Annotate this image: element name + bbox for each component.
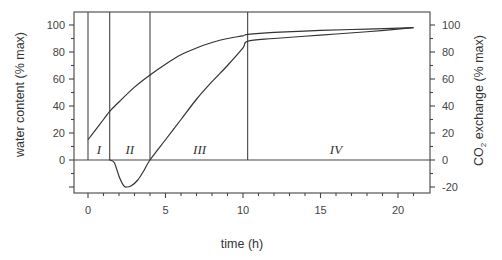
co2-exchange-line (110, 28, 414, 187)
right-tick-label: 100 (442, 19, 460, 31)
right-tick-label: 20 (442, 127, 454, 139)
right-tick-label: 60 (442, 73, 454, 85)
phase-label-II: II (125, 142, 135, 157)
left-tick-label: 100 (47, 19, 65, 31)
chart: 020406080100-2002040608010005101520IIIII… (0, 0, 502, 260)
x-axis-label: time (h) (221, 237, 263, 251)
right-tick-label: -20 (442, 181, 458, 193)
right-tick-label: 0 (442, 154, 448, 166)
phase-label-III: III (192, 142, 207, 157)
plot-frame (74, 12, 430, 193)
left-tick-label: 60 (53, 73, 65, 85)
right-tick-label: 40 (442, 100, 454, 112)
x-tick-label: 10 (237, 204, 249, 216)
y-axis-left-label: water content (% max) (13, 32, 27, 158)
x-tick-label: 5 (162, 204, 168, 216)
water-content-line (88, 28, 414, 140)
phase-label-IV: IV (329, 142, 344, 157)
right-tick-label: 80 (442, 46, 454, 58)
left-tick-label: 40 (53, 100, 65, 112)
phase-label-I: I (96, 142, 102, 157)
x-tick-label: 15 (314, 204, 326, 216)
left-tick-label: 80 (53, 46, 65, 58)
left-tick-label: 20 (53, 127, 65, 139)
y-axis-right-label: CO2 exchange (% max) (472, 35, 488, 166)
x-tick-label: 0 (85, 204, 91, 216)
x-tick-label: 20 (392, 204, 404, 216)
left-tick-label: 0 (59, 154, 65, 166)
